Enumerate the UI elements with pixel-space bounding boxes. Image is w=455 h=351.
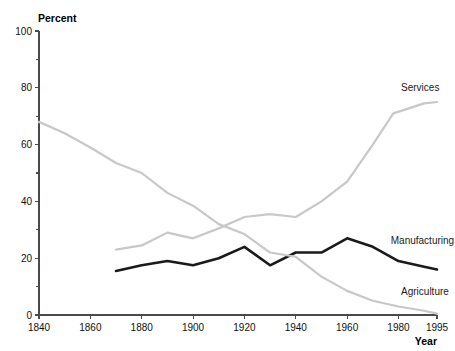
y-tick-label: 20 — [21, 253, 33, 264]
y-tick-label: 40 — [21, 196, 33, 207]
x-tick-label: 1860 — [79, 322, 102, 333]
x-axis-title: Year — [415, 335, 437, 347]
series-label-agriculture: Agriculture — [401, 286, 449, 297]
x-tick-label: 1880 — [131, 322, 154, 333]
x-tick-label: 1940 — [285, 322, 308, 333]
series-label-manufacturing: Manufacturing — [391, 235, 454, 246]
series-label-services: Services — [401, 82, 439, 93]
y-tick-label: 80 — [21, 82, 33, 93]
chart-background — [0, 0, 455, 351]
y-axis-title: Percent — [38, 12, 77, 24]
x-tick-label: 1900 — [182, 322, 205, 333]
chart-container: 020406080100 184018601880190019201940196… — [0, 0, 455, 351]
x-tick-label: 1840 — [28, 322, 51, 333]
x-tick-label: 1980 — [387, 322, 410, 333]
y-tick-label: 60 — [21, 139, 33, 150]
line-chart: 020406080100 184018601880190019201940196… — [0, 0, 455, 351]
x-tick-label: 1995 — [426, 322, 449, 333]
y-tick-label: 100 — [15, 26, 32, 37]
y-tick-label: 0 — [26, 310, 32, 321]
x-tick-label: 1960 — [336, 322, 359, 333]
x-tick-label: 1920 — [233, 322, 256, 333]
